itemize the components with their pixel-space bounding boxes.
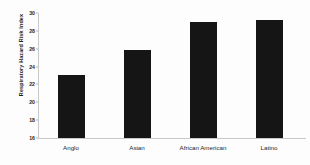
y-axis-tick-label: 26 [29,46,35,52]
y-axis-tick-mark [36,66,38,67]
y-axis-tick-label: 18 [29,117,35,123]
y-axis-title: Respiratory Hazard Risk Index [18,0,24,114]
y-axis-tick-label: 16 [29,135,35,141]
respiratory-hazard-bar-chart: Respiratory Hazard Risk Index 1618202224… [0,0,310,165]
y-axis-tick-mark [36,120,38,121]
y-axis-tick-mark [36,30,38,31]
plot-area: 1618202224262830 [38,13,302,138]
y-axis-tick-label: 24 [29,64,35,70]
y-axis-tick-label: 28 [29,28,35,34]
x-axis-label-anglo: Anglo [63,144,79,151]
y-axis-tick-mark [36,13,38,14]
y-axis-tick-label: 20 [29,99,35,105]
bar-asian [124,50,151,138]
bar-african-american [190,22,217,138]
bar-anglo [58,75,85,138]
x-axis-label-asian: Asian [129,144,144,151]
y-axis-tick-mark [36,102,38,103]
y-axis-tick-mark [36,48,38,49]
y-axis-tick-label: 22 [29,81,35,87]
x-axis-label-latino: Latino [261,144,278,151]
y-axis-tick-mark [36,84,38,85]
y-axis-tick-label: 30 [29,10,35,16]
y-axis-tick-mark [36,138,38,139]
x-axis-label-african-american: African American [180,144,227,151]
bar-latino [256,20,283,138]
